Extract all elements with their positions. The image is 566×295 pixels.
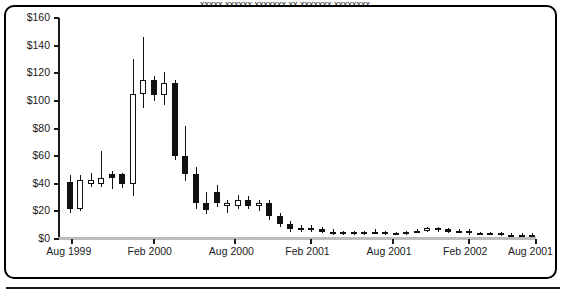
y-tick-label: $120 bbox=[0, 67, 50, 78]
candle-body bbox=[435, 228, 441, 230]
candle-body bbox=[330, 232, 336, 234]
candle-body bbox=[340, 232, 346, 234]
y-tick-label: $80 bbox=[0, 123, 50, 134]
candle-body bbox=[498, 233, 504, 235]
candle-wick bbox=[259, 200, 260, 211]
candle-body bbox=[403, 232, 409, 234]
candle-body bbox=[277, 216, 283, 224]
candle-body bbox=[182, 156, 188, 174]
candle-body bbox=[529, 235, 535, 237]
x-tick-mark bbox=[234, 239, 236, 244]
candle-body bbox=[351, 232, 357, 234]
candle-body bbox=[456, 231, 462, 233]
candle-body bbox=[161, 83, 167, 95]
candle-body bbox=[477, 233, 483, 235]
candle-body bbox=[151, 80, 157, 95]
y-tick-label: $140 bbox=[0, 40, 50, 51]
candle-body bbox=[109, 174, 115, 178]
candle-body bbox=[193, 174, 199, 203]
x-tick-label: Aug 2000 bbox=[209, 245, 254, 257]
y-tick-label: $100 bbox=[0, 95, 50, 106]
y-tick-label: $0 bbox=[0, 233, 50, 244]
candle-body bbox=[88, 180, 94, 184]
x-tick-label: Aug 2001 bbox=[508, 245, 553, 257]
x-tick-label: Feb 2002 bbox=[443, 245, 487, 257]
candle-body bbox=[235, 200, 241, 206]
candle-body bbox=[424, 228, 430, 231]
candle-body bbox=[372, 232, 378, 234]
candle-body bbox=[519, 235, 525, 237]
candle-body bbox=[256, 203, 262, 206]
candlestick-series bbox=[58, 18, 536, 239]
candle-body bbox=[67, 182, 73, 208]
candle-body bbox=[298, 228, 304, 230]
y-tick-label: $20 bbox=[0, 205, 50, 216]
candle-body bbox=[140, 80, 146, 94]
bottom-rule bbox=[6, 287, 560, 289]
candle-body bbox=[382, 232, 388, 234]
x-tick-label: Aug 1999 bbox=[46, 245, 91, 257]
candle-body bbox=[308, 228, 314, 230]
candle-body bbox=[119, 174, 125, 184]
x-tick-mark bbox=[392, 239, 394, 244]
candle-body bbox=[487, 233, 493, 235]
candle-body bbox=[393, 233, 399, 235]
x-tick-mark bbox=[468, 239, 470, 244]
candle-body bbox=[214, 192, 220, 203]
y-tick-label: $40 bbox=[0, 178, 50, 189]
candle-body bbox=[224, 203, 230, 206]
candle-body bbox=[203, 203, 209, 210]
y-tick-label: $60 bbox=[0, 150, 50, 161]
candle-body bbox=[266, 203, 272, 215]
bottom-rule-strip bbox=[0, 283, 566, 295]
x-tick-label: Feb 2001 bbox=[285, 245, 329, 257]
candle-body bbox=[466, 231, 472, 234]
x-tick-mark bbox=[153, 239, 155, 244]
candle-body bbox=[172, 83, 178, 156]
candle-body bbox=[361, 232, 367, 234]
x-tick-label: Aug 2001 bbox=[367, 245, 412, 257]
candle-body bbox=[77, 180, 83, 209]
x-tick-label: Feb 2000 bbox=[128, 245, 172, 257]
x-tick-mark bbox=[535, 239, 537, 244]
y-tick-label: $160 bbox=[0, 12, 50, 23]
candle-body bbox=[508, 235, 514, 237]
candle-body bbox=[414, 231, 420, 233]
candle-wick bbox=[143, 37, 144, 107]
chart-page: xxxxx xxxxxx xxxxxxx xx xxxxxxx xxxxxxxx… bbox=[0, 0, 566, 295]
candle-body bbox=[130, 94, 136, 184]
x-tick-mark bbox=[310, 239, 312, 244]
candle-body bbox=[245, 200, 251, 206]
candle-body bbox=[98, 178, 104, 184]
x-tick-mark bbox=[71, 239, 73, 244]
candle-body bbox=[319, 229, 325, 232]
candle-body bbox=[287, 224, 293, 230]
candle-body bbox=[445, 229, 451, 232]
